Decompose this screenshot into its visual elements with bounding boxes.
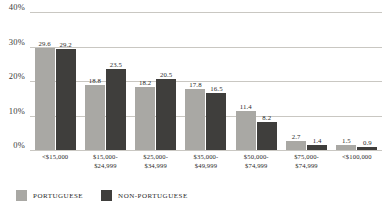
bar-group: 18.823.5 — [80, 12, 130, 150]
y-tick-label: 40% — [9, 2, 25, 12]
bar[interactable] — [336, 145, 356, 150]
bar-wrap: 29.6 — [35, 12, 55, 150]
bar-wrap: 0.9 — [357, 12, 377, 150]
bar-wrap: 18.2 — [135, 12, 155, 150]
bar-wrap: 17.8 — [185, 12, 205, 150]
bar-value-label: 18.2 — [139, 79, 151, 86]
bar[interactable] — [206, 93, 226, 150]
bar-value-label: 0.9 — [363, 139, 372, 146]
legend-swatch-icon — [16, 190, 27, 201]
bar-group: 18.220.5 — [131, 12, 181, 150]
bar-value-label: 16.5 — [210, 85, 222, 92]
bar-wrap: 20.5 — [156, 12, 176, 150]
x-axis-labels: <$15,000$15,000-$24,999$25,000-$34,999$3… — [30, 152, 382, 170]
bar-wrap: 2.7 — [286, 12, 306, 150]
legend-label: NON-PORTUGUESE — [118, 192, 188, 200]
bar[interactable] — [56, 49, 76, 150]
legend-item[interactable]: NON-PORTUGUESE — [101, 190, 188, 201]
y-tick-label: 30% — [9, 37, 25, 47]
x-axis-category-label: <$15,000 — [30, 152, 80, 170]
bar-group: 29.629.2 — [30, 12, 80, 150]
bar-wrap: 8.2 — [257, 12, 277, 150]
bar-value-label: 17.8 — [189, 81, 201, 88]
bar-wrap: 23.5 — [106, 12, 126, 150]
plot-area: 0%10%20%30%40% 29.629.218.823.518.220.51… — [30, 12, 382, 150]
bar-wrap: 1.4 — [307, 12, 327, 150]
x-axis-category-label: $35,000-$49,999 — [181, 152, 231, 170]
bar[interactable] — [257, 122, 277, 150]
bar-group: 1.50.9 — [332, 12, 382, 150]
bar-wrap: 18.8 — [85, 12, 105, 150]
bar-series-layer: 29.629.218.823.518.220.517.816.511.48.22… — [30, 12, 382, 150]
bar[interactable] — [135, 87, 155, 150]
legend-label: PORTUGUESE — [33, 192, 83, 200]
y-tick-label: 20% — [9, 71, 25, 81]
bar-wrap: 11.4 — [236, 12, 256, 150]
bar-wrap: 1.5 — [336, 12, 356, 150]
x-axis-category-label: <$100,000 — [332, 152, 382, 170]
x-axis-category-label: $25,000-$34,999 — [131, 152, 181, 170]
bar-value-label: 11.4 — [240, 103, 252, 110]
chart-legend: PORTUGUESENON-PORTUGUESE — [16, 190, 188, 201]
x-axis-category-label: $15,000-$24,999 — [80, 152, 130, 170]
bar-group: 17.816.5 — [181, 12, 231, 150]
bar-value-label: 18.8 — [89, 77, 101, 84]
bar-value-label: 8.2 — [262, 114, 271, 121]
bar[interactable] — [85, 85, 105, 150]
bar-value-label: 23.5 — [110, 61, 122, 68]
bar-chart: 0%10%20%30%40% 29.629.218.823.518.220.51… — [0, 0, 390, 216]
bar-value-label: 2.7 — [292, 133, 301, 140]
bar[interactable] — [286, 141, 306, 150]
bar-value-label: 20.5 — [160, 71, 172, 78]
bar-value-label: 1.4 — [313, 137, 322, 144]
bar[interactable] — [236, 111, 256, 150]
bar[interactable] — [156, 79, 176, 150]
y-tick-label: 0% — [13, 140, 25, 150]
y-tick-label: 10% — [9, 106, 25, 116]
bar[interactable] — [185, 89, 205, 150]
x-axis-category-label: $75,000-$74,999 — [281, 152, 331, 170]
bar-wrap: 16.5 — [206, 12, 226, 150]
legend-swatch-icon — [101, 190, 112, 201]
bar-value-label: 1.5 — [342, 137, 351, 144]
bar-group: 2.71.4 — [281, 12, 331, 150]
bar-value-label: 29.2 — [59, 41, 71, 48]
bar-group: 11.48.2 — [231, 12, 281, 150]
bar[interactable] — [357, 147, 377, 150]
bar[interactable] — [307, 145, 327, 150]
bar[interactable] — [35, 48, 55, 150]
gridline — [30, 150, 382, 151]
bar-value-label: 29.6 — [38, 40, 50, 47]
bar-wrap: 29.2 — [56, 12, 76, 150]
bar[interactable] — [106, 69, 126, 150]
x-axis-category-label: $50,000-$74,999 — [231, 152, 281, 170]
legend-item[interactable]: PORTUGUESE — [16, 190, 83, 201]
